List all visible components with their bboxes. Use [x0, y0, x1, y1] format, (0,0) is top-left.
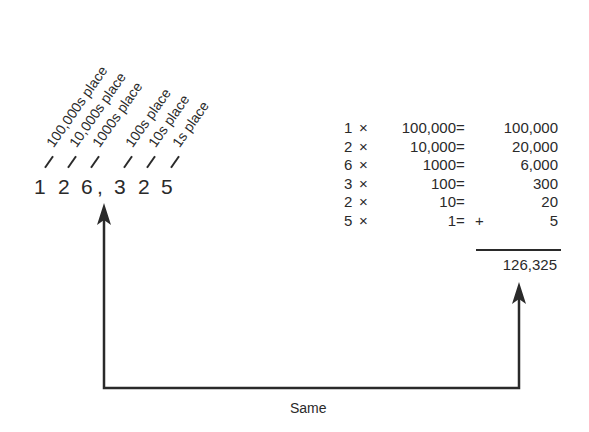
connector-line: [104, 215, 519, 388]
connector-arrows: [0, 0, 589, 432]
same-label: Same: [290, 400, 327, 416]
